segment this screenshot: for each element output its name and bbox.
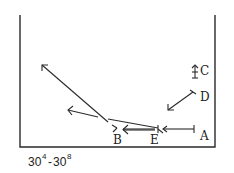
vector-diagram: C D A B E 30 4 - 30 8 [0,0,234,173]
caption-sup-2: 8 [67,152,72,161]
label-e: E [150,133,159,147]
arrow-d [168,90,196,110]
label-c: C [200,64,209,78]
caption: 30 4 - 30 8 [28,152,72,169]
container-box [20,15,215,147]
point-b-marker [112,125,117,132]
middle-arrow [68,106,98,117]
point-c-marker [192,65,198,78]
label-a: A [199,129,209,143]
caption-base-1: 30 [28,155,42,169]
caption-base-2: 30 [53,155,67,169]
container-walls [20,15,215,147]
caption-sup-1: 4 [42,152,47,161]
caption-dash: - [48,155,52,169]
label-d: D [200,90,210,104]
long-arrow [42,65,108,122]
arrow-a-to-e [163,125,194,133]
label-b: B [113,133,122,147]
